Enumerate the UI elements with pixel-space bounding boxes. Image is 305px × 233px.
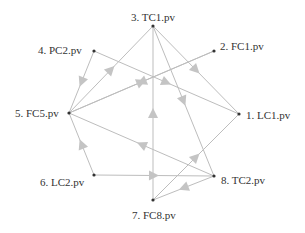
node-label-tc1: 3. TC1.pv [131, 11, 175, 23]
node-label-lc2: 6. LC2.pv [40, 176, 84, 188]
node-dot-n6[interactable] [92, 173, 95, 176]
node-dot-n2[interactable] [212, 49, 215, 52]
node-dot-n7[interactable] [151, 198, 154, 201]
node-label-fc5: 5. FC5.pv [15, 107, 59, 119]
node-dot-n5[interactable] [67, 111, 70, 114]
node-dot-n8[interactable] [212, 174, 215, 177]
node-label-lc1: 1. LC1.pv [246, 109, 290, 121]
node-label-fc8: 7. FC8.pv [132, 209, 176, 221]
node-dot-n3[interactable] [151, 24, 154, 27]
node-label-fc1: 2. FC1.pv [220, 40, 264, 52]
node-label-pc2: 4. PC2.pv [38, 44, 82, 56]
arrowhead-icon [148, 108, 158, 118]
node-dot-n4[interactable] [92, 49, 95, 52]
node-label-tc2: 8. TC2.pv [221, 174, 265, 186]
arrowhead-icon [149, 170, 159, 180]
node-dot-n1[interactable] [237, 112, 240, 115]
